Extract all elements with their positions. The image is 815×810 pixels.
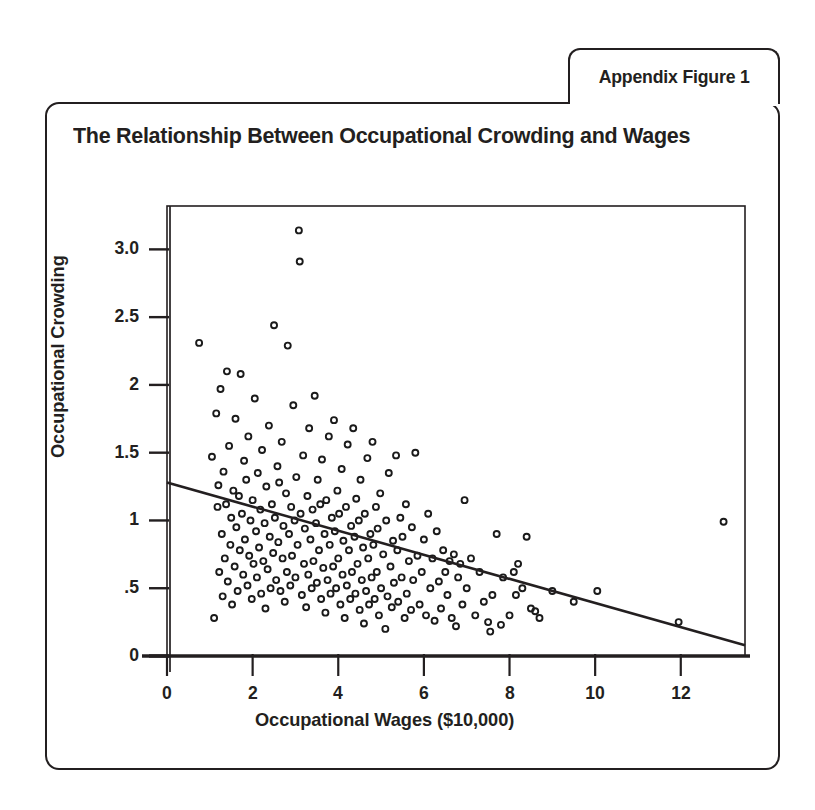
x-tick-label: 12 [652,682,709,704]
data-point [357,607,363,613]
data-point [241,458,247,464]
data-point [337,601,343,607]
data-point [326,433,332,439]
data-point [300,452,306,458]
data-point [216,569,222,575]
data-point [226,443,232,449]
data-point [250,497,256,503]
data-point [676,619,682,625]
data-point [277,588,283,594]
scatter-chart: 0.511.522.53.0 024681012 Occupational Cr… [0,0,815,810]
data-point [345,442,351,448]
data-point [348,523,354,529]
y-tick-label: 2.5 [80,305,139,327]
data-point [380,551,386,557]
data-point [232,564,238,570]
data-point [260,558,266,564]
data-point [397,515,403,521]
data-point [485,619,491,625]
data-point [249,596,255,602]
data-point [386,470,392,476]
data-point [406,558,412,564]
data-point [268,585,274,591]
data-point [196,340,202,346]
data-point [356,517,362,523]
x-tick-label: 6 [395,682,452,704]
data-point [376,612,382,618]
data-point [296,227,302,233]
data-point [507,612,513,618]
data-point [352,591,358,597]
fit-line [167,483,745,646]
data-point [247,517,253,523]
data-point [240,572,246,578]
data-point [359,577,365,583]
data-point [343,504,349,510]
data-point [355,561,361,567]
data-point [295,542,301,548]
data-point [213,410,219,416]
data-point [498,622,504,628]
data-point [340,538,346,544]
plot-frame [167,206,745,656]
data-point [252,395,258,401]
y-axis-title: Occupational Crowding [47,255,69,458]
data-point [489,592,495,598]
appendix-figure-1: Appendix Figure 1 The Relationship Betwe… [0,0,815,810]
data-point [594,588,600,594]
data-point [236,493,242,499]
data-point [468,555,474,561]
x-tick-label: 0 [139,682,196,704]
data-point [369,574,375,580]
data-point [269,501,275,507]
data-point [329,515,335,521]
data-point [286,531,292,537]
data-point [316,547,322,553]
data-point [421,536,427,542]
data-point [283,490,289,496]
data-point [366,601,372,607]
data-point [350,425,356,431]
data-point [220,593,226,599]
data-point [327,542,333,548]
data-point [434,528,440,534]
data-point [333,585,339,591]
data-point [419,569,425,575]
data-point [399,534,405,540]
data-point [233,416,239,422]
data-point [370,542,376,548]
data-point [402,615,408,621]
data-point [218,386,224,392]
data-point [246,553,252,559]
data-point [262,606,268,612]
data-point [336,511,342,517]
data-point [383,517,389,523]
data-point [233,524,239,530]
data-point [238,371,244,377]
data-point [524,534,530,540]
data-point [253,528,259,534]
y-axis-ticks [149,249,169,656]
data-point [721,519,727,525]
data-point [335,555,341,561]
data-point [444,592,450,598]
data-point [349,569,355,575]
data-point [285,343,291,349]
data-point [481,599,487,605]
data-point [374,569,380,575]
data-point [344,583,350,589]
data-point [362,511,368,517]
data-point [254,574,260,580]
data-point [403,501,409,507]
x-tick-label: 4 [310,682,367,704]
data-point [340,572,346,578]
regression-line [167,483,745,646]
data-point [211,615,217,621]
data-point [449,615,455,621]
x-tick-label: 2 [224,682,281,704]
data-point [519,585,525,591]
data-point [222,555,228,561]
data-point [287,583,293,589]
data-point [239,511,245,517]
data-point [282,599,288,605]
